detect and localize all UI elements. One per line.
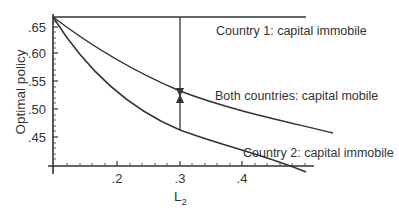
y-axis-title: Optimal policy (13, 49, 28, 134)
annotation-country1: Country 1: capital immobile (216, 24, 367, 38)
x-tick-label: .2 (112, 171, 123, 186)
y-tick-label: .45 (28, 130, 46, 145)
chart: .65 .60 .55 .50 .45 .2 .3 .4 Optimal pol… (0, 0, 399, 212)
y-tick-label: .50 (28, 102, 46, 117)
y-tick-label: .60 (28, 46, 46, 61)
annotation-country2: Country 2: capital immobile (243, 146, 394, 160)
arrow-head-up (176, 94, 184, 103)
y-tick-label: .65 (28, 20, 46, 35)
x-tick-label: .3 (175, 171, 186, 186)
annotation-both-countries: Both countries: capital mobile (215, 89, 378, 103)
x-tick-label: .4 (237, 171, 248, 186)
y-tick-label: .55 (28, 74, 46, 89)
x-axis-title-sub: 2 (182, 196, 187, 207)
x-axis-title: L2 (174, 189, 187, 207)
